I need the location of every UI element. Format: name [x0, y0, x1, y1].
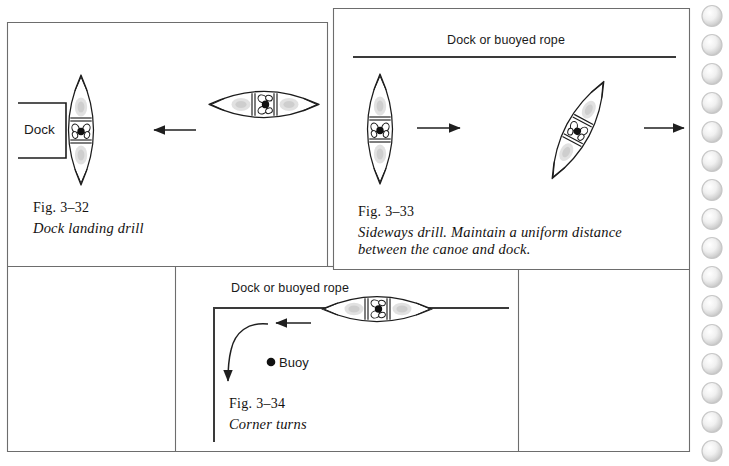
figure-caption-3-33-line1: Sideways drill. Maintain a uniform dista… — [358, 224, 622, 241]
figure-number-3-34: Fig. 3–34 — [229, 396, 285, 412]
buoy-dot-icon — [267, 358, 276, 367]
dock-rope-label-fig-3-33: Dock or buoyed rope — [447, 33, 565, 47]
figure-caption-3-34: Corner turns — [229, 416, 307, 433]
figure-3-32-artwork — [18, 75, 319, 185]
buoy-label-fig-3-34: Buoy — [279, 355, 309, 370]
figure-number-3-32: Fig. 3–32 — [33, 200, 89, 216]
figure-caption-3-33-line2: between the canoe and dock. — [358, 241, 531, 258]
figure-caption-3-32: Dock landing drill — [33, 220, 144, 237]
book-page: Dock Fig. 3–32 Dock landing drill Dock o… — [0, 0, 729, 466]
dock-rope-label-fig-3-34: Dock or buoyed rope — [231, 281, 349, 295]
curved-turn-arrow-fig-3-34 — [228, 324, 268, 381]
dock-label-fig-3-32: Dock — [24, 122, 55, 137]
figure-3-33-artwork — [353, 57, 684, 184]
spiral-binding-holes — [702, 6, 722, 462]
figure-number-3-33: Fig. 3–33 — [358, 204, 414, 220]
